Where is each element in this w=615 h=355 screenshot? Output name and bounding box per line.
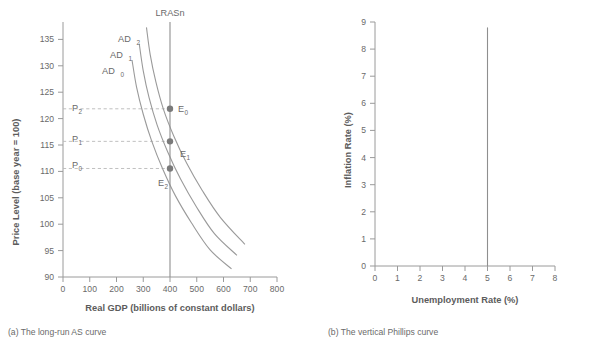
panel-b-y-tick-0: 0 [361, 261, 366, 271]
price-label-p0-base: P [72, 160, 78, 170]
panel-b-x-tick-5: 5 [485, 273, 490, 283]
panel-a-x-tick-400: 400 [163, 284, 178, 294]
panel-b-x-tick-1: 1 [395, 273, 400, 283]
lras-label: LRASn [155, 8, 184, 18]
panel-a-x-tick-500: 500 [190, 284, 205, 294]
ad1-label-sub: 1 [129, 55, 133, 62]
equilibrium-label-e1-base: E [180, 149, 186, 159]
panel-b-x-tick-4: 4 [463, 273, 468, 283]
panel-b-y-axis-title: Inflation Rate (%) [343, 112, 353, 188]
panel-a-y-tick-115: 115 [40, 140, 54, 150]
ad1-label-base: AD [110, 50, 123, 60]
panel-a-caption: (a) The long-run AS curve [8, 327, 106, 337]
panel-b-x-tick-0: 0 [373, 273, 378, 283]
equilibrium-dot-e2 [167, 165, 173, 171]
price-label-p2-base: P [72, 103, 78, 113]
panel-b-y-tick-4: 4 [361, 153, 366, 163]
panel-a-y-tick-90: 90 [44, 272, 54, 282]
panel-a-y-tick-95: 95 [44, 246, 54, 256]
panel-a-x-tick-100: 100 [83, 284, 98, 294]
ad0-label-sub: 0 [121, 71, 125, 78]
equilibrium-label-e0: E 0 [178, 104, 189, 116]
panel-a-x-axis-title: Real GDP (billions of constant dollars) [85, 303, 254, 313]
panel-b-y-tick-3: 3 [361, 180, 366, 190]
equilibrium-dot-e1 [167, 138, 173, 144]
panel-b-x-tick-6: 6 [508, 273, 513, 283]
panel-a-plot: Price Level (base year = 100) 90 95 [0, 0, 320, 355]
panel-b-x-axis-title: Unemployment Rate (%) [412, 295, 519, 305]
panel-b-vertical-phillips-curve: Inflation Rate (%) 0 1 2 3 [320, 0, 615, 355]
panel-b-y-tick-6: 6 [361, 98, 366, 108]
panel-a-y-tick-130: 130 [40, 61, 55, 71]
panel-a-x-tick-labels: 0 100 200 300 400 500 600 700 800 [61, 284, 285, 294]
panel-a-y-tick-120: 120 [40, 114, 55, 124]
price-label-p0-sub: 0 [79, 165, 83, 172]
panel-a-x-tick-300: 300 [136, 284, 151, 294]
panel-a-x-tick-800: 800 [270, 284, 285, 294]
panel-a-x-ticks [63, 277, 277, 282]
panel-a-x-tick-700: 700 [243, 284, 258, 294]
equilibrium-dot-e0 [167, 106, 173, 112]
panel-b-x-ticks [375, 266, 555, 271]
economics-figure: Price Level (base year = 100) 90 95 [0, 0, 615, 355]
panel-b-caption: (b) The vertical Phillips curve [328, 327, 438, 337]
ad2-label-sub: 2 [137, 39, 141, 46]
price-label-p2-sub: 2 [79, 108, 83, 115]
price-label-p2: P 2 [72, 103, 83, 115]
panel-a-y-ticks [58, 39, 63, 277]
ad0-label-base: AD [102, 66, 115, 76]
panel-a-x-tick-200: 200 [109, 284, 124, 294]
panel-a-y-tick-135: 135 [40, 34, 55, 44]
panel-a-y-tick-125: 125 [40, 87, 55, 97]
panel-a-x-tick-0: 0 [61, 284, 66, 294]
ad2-label: AD 2 [118, 34, 141, 46]
panel-a-x-tick-600: 600 [216, 284, 231, 294]
panel-b-y-tick-9: 9 [361, 17, 366, 27]
panel-a-y-axis-title: Price Level (base year = 100) [11, 119, 21, 246]
panel-b-x-tick-8: 8 [553, 273, 558, 283]
price-label-p1: P 1 [72, 134, 83, 146]
ad1-label: AD 1 [110, 50, 133, 62]
panel-a-y-tick-labels: 90 95 100 105 110 115 120 125 130 135 [40, 34, 55, 282]
panel-b-x-tick-3: 3 [440, 273, 445, 283]
panel-b-y-tick-5: 5 [361, 125, 366, 135]
ad2-label-base: AD [118, 34, 131, 44]
equilibrium-label-e1-sub: 1 [187, 154, 191, 161]
equilibrium-label-e2-sub: 2 [165, 183, 169, 190]
panel-b-y-tick-7: 7 [361, 71, 366, 81]
equilibrium-label-e2-base: E [158, 178, 164, 188]
panel-b-y-tick-2: 2 [361, 207, 366, 217]
panel-b-x-tick-7: 7 [530, 273, 535, 283]
panel-b-y-ticks [370, 22, 375, 266]
price-label-p1-base: P [72, 134, 78, 144]
equilibrium-label-e1: E 1 [180, 149, 191, 161]
panel-b-y-tick-labels: 0 1 2 3 4 5 6 7 8 9 [361, 17, 366, 271]
panel-a-y-tick-105: 105 [40, 193, 55, 203]
panel-a-long-run-as-curve: Price Level (base year = 100) 90 95 [0, 0, 320, 355]
price-label-p0: P 0 [72, 160, 83, 172]
ad0-label: AD 0 [102, 66, 125, 78]
equilibrium-label-e0-base: E [178, 104, 184, 114]
panel-b-y-tick-1: 1 [361, 234, 366, 244]
panel-b-x-tick-2: 2 [418, 273, 423, 283]
panel-b-plot: Inflation Rate (%) 0 1 2 3 [320, 0, 615, 355]
panel-a-y-tick-100: 100 [40, 219, 55, 229]
equilibrium-label-e0-sub: 0 [185, 109, 189, 116]
price-label-p1-sub: 1 [79, 139, 83, 146]
panel-b-x-tick-labels: 0 1 2 3 4 5 6 7 8 [373, 273, 558, 283]
panel-a-y-tick-110: 110 [40, 166, 54, 176]
panel-b-y-tick-8: 8 [361, 44, 366, 54]
